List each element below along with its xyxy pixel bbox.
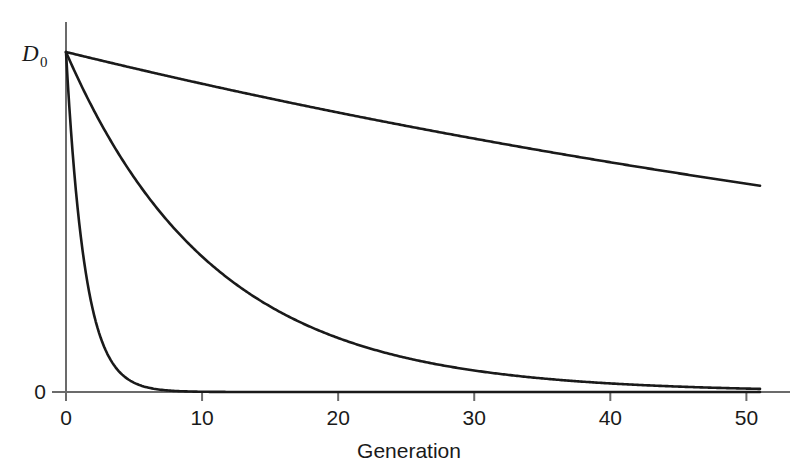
x-tick-label: 30 <box>463 406 486 429</box>
x-tick-labels: 01020304050 <box>60 406 758 429</box>
data-curves <box>66 52 760 392</box>
x-axis-title: Generation <box>357 439 461 462</box>
x-tick-label: 10 <box>190 406 213 429</box>
x-tick-label: 40 <box>599 406 622 429</box>
x-tick-label: 50 <box>735 406 758 429</box>
x-tick-marks <box>54 392 746 401</box>
y-axis-label-d0: D 0 <box>21 41 48 70</box>
y-tick-label-zero: 0 <box>34 380 46 403</box>
y-axis-label-d-letter: D <box>21 41 39 66</box>
x-tick-label: 20 <box>326 406 349 429</box>
figure-container: 01020304050 0 D 0 Generation <box>0 0 798 473</box>
x-tick-label: 0 <box>60 406 72 429</box>
axes-group <box>52 22 790 394</box>
curve-slow-decay <box>66 52 760 186</box>
curve-medium-decay <box>66 52 760 389</box>
y-axis-label-d-subscript: 0 <box>40 54 48 70</box>
decay-curves-chart: 01020304050 0 D 0 Generation <box>0 0 798 473</box>
